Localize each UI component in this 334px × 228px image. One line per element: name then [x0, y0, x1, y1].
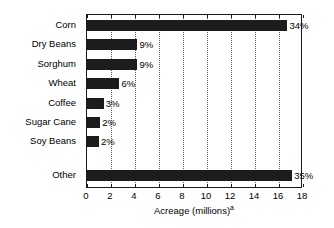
- bar-value-label: 35%: [294, 170, 313, 181]
- bar: [87, 117, 100, 128]
- x-tick-label: 12: [225, 190, 236, 202]
- category-label: Wheat: [0, 77, 76, 88]
- bar-value-label: 9%: [139, 39, 153, 50]
- bar-value-label: 3%: [106, 98, 120, 109]
- bar-value-label: 34%: [289, 20, 308, 31]
- category-label: Sorghum: [0, 58, 76, 69]
- bar: [87, 98, 104, 109]
- x-tick-label: 0: [83, 190, 88, 202]
- x-tick-label: 18: [297, 190, 308, 202]
- bar: [87, 78, 119, 89]
- bar-value-label: 6%: [121, 78, 135, 89]
- category-label: Coffee: [0, 97, 76, 108]
- bar: [87, 136, 99, 147]
- axis-tick: [303, 15, 304, 18]
- x-tick-label: 10: [201, 190, 212, 202]
- category-axis: CornDry BeansSorghumWheatCoffeeSugar Can…: [0, 14, 82, 188]
- horizontal-bar-chart: CornDry BeansSorghumWheatCoffeeSugar Can…: [0, 0, 334, 228]
- x-axis-tick-labels: 024681012141618: [86, 190, 302, 203]
- x-tick-label: 4: [131, 190, 136, 202]
- bar: [87, 20, 287, 31]
- category-label: Other: [0, 169, 76, 180]
- bar-series: 34%9%9%6%3%2%2%35%: [87, 15, 301, 187]
- category-label: Soy Beans: [0, 135, 76, 146]
- x-tick-label: 2: [107, 190, 112, 202]
- category-label: Sugar Cane: [0, 116, 76, 127]
- bar: [87, 59, 137, 70]
- axis-tick: [303, 184, 304, 187]
- category-label: Dry Beans: [0, 38, 76, 49]
- x-tick-label: 8: [179, 190, 184, 202]
- bar-value-label: 2%: [101, 136, 115, 147]
- x-axis-title-footnote-marker: a: [230, 204, 234, 211]
- x-tick-label: 16: [273, 190, 284, 202]
- category-label: Corn: [0, 19, 76, 30]
- bar-value-label: 2%: [102, 117, 116, 128]
- x-axis-title: Acreage (millions)a: [86, 205, 302, 217]
- x-tick-label: 6: [155, 190, 160, 202]
- bar-value-label: 9%: [139, 59, 153, 70]
- plot-area: 34%9%9%6%3%2%2%35%: [86, 14, 302, 188]
- bar: [87, 39, 137, 50]
- bar: [87, 170, 292, 181]
- x-tick-label: 14: [249, 190, 260, 202]
